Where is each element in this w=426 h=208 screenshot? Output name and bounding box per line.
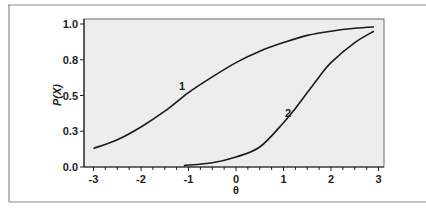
y-axis-title: P(X) (51, 84, 63, 106)
chart-figure: 0.00.30.50.81.0 -3-2-10123 θ P(X) 1 2 (0, 0, 426, 208)
x-axis-ticks: -3-2-10123 (89, 167, 382, 185)
y-tick-label: 1.0 (63, 18, 78, 30)
curve-2-label: 2 (285, 107, 291, 119)
y-axis-ticks: 0.00.30.50.81.0 (63, 18, 84, 173)
plot-area (84, 19, 384, 167)
x-tick-label: 3 (375, 173, 381, 185)
x-tick-label: -2 (136, 173, 146, 185)
x-tick-label: -1 (184, 173, 194, 185)
y-tick-label: 0.8 (63, 54, 78, 66)
x-tick-label: -3 (89, 173, 99, 185)
y-tick-label: 0.5 (63, 90, 78, 102)
x-tick-label: 2 (328, 173, 334, 185)
x-tick-label: 1 (280, 173, 286, 185)
y-tick-label: 0.3 (63, 125, 78, 137)
y-tick-label: 0.0 (63, 161, 78, 173)
curve-1-label: 1 (179, 80, 185, 92)
x-axis-title: θ (233, 184, 239, 196)
